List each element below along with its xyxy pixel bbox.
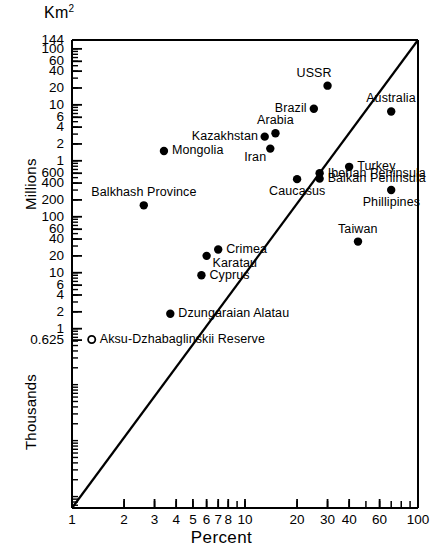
data-point-marker (271, 129, 279, 137)
data-point-label: Phillipines (363, 196, 420, 209)
data-point-label: USSR (297, 67, 332, 80)
data-markers (88, 81, 395, 343)
x-tick-label: 3 (151, 513, 159, 527)
y-tick-label: 400 (18, 176, 64, 190)
data-point-marker (354, 237, 362, 245)
y-axis-ticks (72, 40, 82, 505)
data-point-label: Caucasus (269, 185, 325, 198)
data-point-label: Arabia (257, 114, 294, 127)
data-point-marker (387, 107, 395, 115)
data-point-label: Balkan Peninsula (328, 172, 426, 185)
x-tick-label: 20 (290, 513, 305, 527)
data-point-marker (323, 81, 331, 89)
y-tick-label: 20 (18, 81, 64, 95)
data-point-label: Aksu-Dzhabaglinskii Reserve (100, 333, 265, 346)
y-tick-label: 40 (18, 232, 64, 246)
data-point-marker (140, 201, 148, 209)
data-point-marker (315, 174, 323, 182)
y-tick-label: 4 (18, 288, 64, 302)
data-point-marker (166, 310, 174, 318)
y-tick-label: 4 (18, 120, 64, 134)
data-point-label: Kazakhstan (192, 130, 258, 143)
x-tick-label: 7 (214, 513, 222, 527)
y-tick-label: 0.625 (6, 333, 64, 347)
data-point-label: Australia (366, 92, 416, 105)
x-tick-label: 6 (203, 513, 211, 527)
data-point-label: Iran (244, 151, 266, 164)
data-point-marker (310, 105, 318, 113)
data-point-marker (197, 271, 205, 279)
data-point-marker (214, 245, 222, 253)
x-tick-label: 10 (237, 513, 252, 527)
data-point-label: Mongolia (172, 144, 224, 157)
data-point-label: Cyprus (209, 269, 249, 282)
data-point-marker (88, 336, 95, 343)
y-tick-label: 2 (18, 137, 64, 151)
data-point-label: Taiwan (338, 223, 378, 236)
data-point-marker (293, 175, 301, 183)
x-tick-label: 4 (172, 513, 180, 527)
data-point-label: Dzungaraian Alatau (178, 307, 289, 320)
x-tick-label: 1 (68, 513, 76, 527)
x-tick-label: 100 (407, 513, 430, 527)
y-tick-label: 2 (18, 305, 64, 319)
data-point-marker (261, 132, 269, 140)
y-tick-label: 40 (18, 64, 64, 78)
data-point-label: Crimea (226, 243, 267, 256)
x-tick-label: 60 (372, 513, 387, 527)
x-tick-label: 5 (189, 513, 197, 527)
x-tick-label: 40 (342, 513, 357, 527)
x-axis-ticks (72, 499, 418, 508)
data-point-marker (202, 252, 210, 260)
y-tick-label: 20 (18, 249, 64, 263)
data-point-label: Balkhash Province (91, 186, 196, 199)
data-point-marker (160, 147, 168, 155)
data-point-marker (266, 144, 274, 152)
data-point-marker (387, 186, 395, 194)
x-tick-label: 30 (320, 513, 335, 527)
x-tick-label: 2 (120, 513, 128, 527)
x-tick-label: 8 (224, 513, 232, 527)
scatter-chart: Km2 Millions Thousands Percent 144100604… (0, 0, 443, 554)
y-tick-label: 200 (18, 193, 64, 207)
